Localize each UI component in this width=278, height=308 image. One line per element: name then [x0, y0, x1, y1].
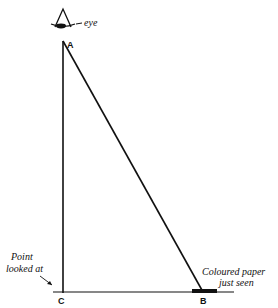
coloured-paper-bar	[192, 289, 217, 293]
eye-pointer-arrow	[76, 23, 82, 24]
eye-triangle-diagram: eye A C B Point looked at Coloured paper…	[0, 0, 278, 308]
eye-label: eye	[84, 17, 98, 28]
point-looked-at-label-1: Point	[10, 251, 33, 262]
eye-icon	[51, 9, 75, 28]
point-b-label: B	[200, 296, 207, 306]
point-a-label: A	[67, 40, 74, 50]
line-ab	[63, 41, 203, 292]
point-c-label: C	[58, 296, 65, 306]
point-looked-at-label-2: looked at	[6, 263, 43, 274]
coloured-paper-label-1: Coloured paper	[202, 266, 265, 277]
coloured-paper-label-2: just seen	[217, 277, 254, 288]
